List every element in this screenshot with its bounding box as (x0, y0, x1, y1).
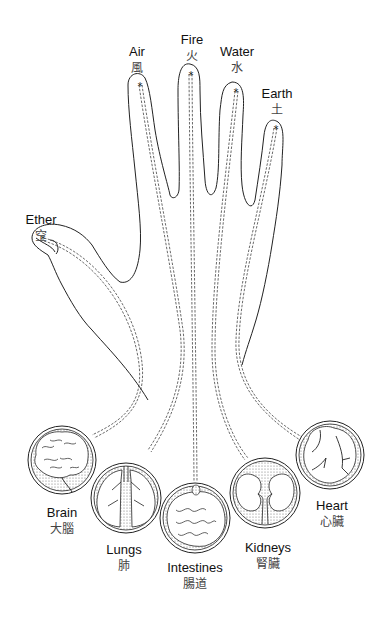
marker-air: * (138, 81, 143, 92)
label-earth: Earth 土 (261, 86, 292, 118)
label-water: Water 水 (220, 44, 254, 76)
label-air: Air 風 (129, 44, 145, 76)
label-lungs: Lungs 肺 (106, 542, 141, 574)
marker-water: * (234, 87, 239, 98)
label-brain: Brain 大腦 (47, 505, 77, 537)
label-kidneys: Kidneys 腎臟 (245, 540, 291, 572)
marker-earth: * (274, 124, 279, 135)
hand-outline (32, 64, 283, 400)
organ-intestines (160, 483, 230, 553)
organ-lungs (91, 463, 161, 533)
meridian-lines (44, 74, 302, 482)
label-ether: Ether 空 (25, 212, 56, 244)
label-fire: Fire 火 (181, 32, 203, 64)
marker-fire: * (189, 70, 194, 81)
label-intestines: Intestines 腸道 (167, 560, 223, 592)
organ-heart (296, 421, 364, 489)
label-heart: Heart 心臟 (316, 498, 348, 530)
organ-brain (28, 426, 96, 494)
organ-kidneys (230, 458, 300, 528)
